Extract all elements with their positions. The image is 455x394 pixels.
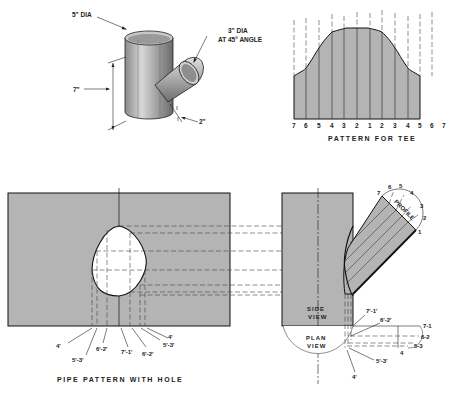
plan-view-label-2: VIEW bbox=[307, 343, 326, 349]
svg-text:3: 3 bbox=[393, 122, 397, 129]
height-label: 7" bbox=[73, 86, 80, 93]
branch-pipe-label-1: 3" DIA bbox=[228, 27, 248, 34]
plan-callout-71: 7'-1' bbox=[366, 308, 378, 314]
isometric-tee: 7" 5" DIA 3" DIA AT 45° ANGLE 2" bbox=[72, 11, 263, 130]
tee-pattern: 7 6 5 4 3 2 1 2 3 4 5 6 7 PATTERN FOR TE… bbox=[292, 10, 446, 142]
branch-pipe-label-2: AT 45° ANGLE bbox=[218, 36, 263, 43]
svg-text:6: 6 bbox=[388, 184, 392, 190]
plan-callout-4: 4' bbox=[352, 374, 357, 380]
offset-label: 2" bbox=[199, 118, 206, 125]
svg-text:2: 2 bbox=[423, 215, 427, 221]
orthographic-views: PROFILE 7 6 5 4 3 2 1 SIDE VIEW PLAN VIE… bbox=[282, 183, 432, 384]
tee-pattern-caption: PATTERN FOR TEE bbox=[328, 135, 416, 142]
side-view-label-1: SIDE bbox=[307, 306, 325, 312]
plan-callout-53: 5'-3' bbox=[376, 358, 388, 364]
callout-62-right: 6'-2' bbox=[142, 351, 154, 357]
plan-view-label-1: PLAN bbox=[306, 335, 326, 341]
svg-text:7: 7 bbox=[442, 122, 446, 129]
svg-text:5-3: 5-3 bbox=[414, 343, 423, 349]
callout-71: 7'-1' bbox=[121, 349, 133, 355]
svg-text:6: 6 bbox=[304, 122, 308, 129]
pipe-pattern: 4' 5'-3' 6'-2' 7'-1' 6'-2' 5'-3' 4' PIPE… bbox=[8, 188, 285, 383]
side-view-label-2: VIEW bbox=[308, 314, 327, 320]
main-pipe-label: 5" DIA bbox=[72, 11, 92, 18]
svg-text:7: 7 bbox=[377, 190, 381, 196]
callout-53-right: 5'-3' bbox=[163, 342, 175, 348]
svg-text:1: 1 bbox=[418, 229, 422, 235]
callout-4p-left: 4' bbox=[56, 343, 61, 349]
svg-text:5: 5 bbox=[399, 183, 403, 189]
svg-text:3: 3 bbox=[420, 203, 424, 209]
callout-62-left: 6'-2' bbox=[96, 346, 108, 352]
plan-callout-62: 6'-2' bbox=[380, 317, 392, 323]
svg-text:4: 4 bbox=[400, 350, 404, 356]
svg-text:3: 3 bbox=[342, 122, 346, 129]
callout-4p-right: 4' bbox=[168, 334, 173, 340]
svg-text:4: 4 bbox=[410, 190, 414, 196]
svg-text:7: 7 bbox=[292, 122, 296, 129]
station-labels: 7 6 5 4 3 2 1 2 3 4 5 6 7 bbox=[292, 122, 446, 129]
svg-text:6: 6 bbox=[430, 122, 434, 129]
svg-text:2: 2 bbox=[380, 122, 384, 129]
svg-text:6-2: 6-2 bbox=[421, 334, 430, 340]
svg-text:2: 2 bbox=[355, 122, 359, 129]
svg-text:5: 5 bbox=[317, 122, 321, 129]
svg-text:1: 1 bbox=[368, 122, 372, 129]
svg-text:5: 5 bbox=[418, 122, 422, 129]
callout-53-left: 5'-3' bbox=[72, 357, 84, 363]
pipe-pattern-caption: PIPE PATTERN WITH HOLE bbox=[57, 376, 183, 383]
svg-text:4: 4 bbox=[406, 122, 410, 129]
svg-text:7-1: 7-1 bbox=[423, 323, 432, 329]
svg-text:4: 4 bbox=[330, 122, 334, 129]
technical-drawing: 7" 5" DIA 3" DIA AT 45° ANGLE 2" bbox=[0, 0, 455, 394]
